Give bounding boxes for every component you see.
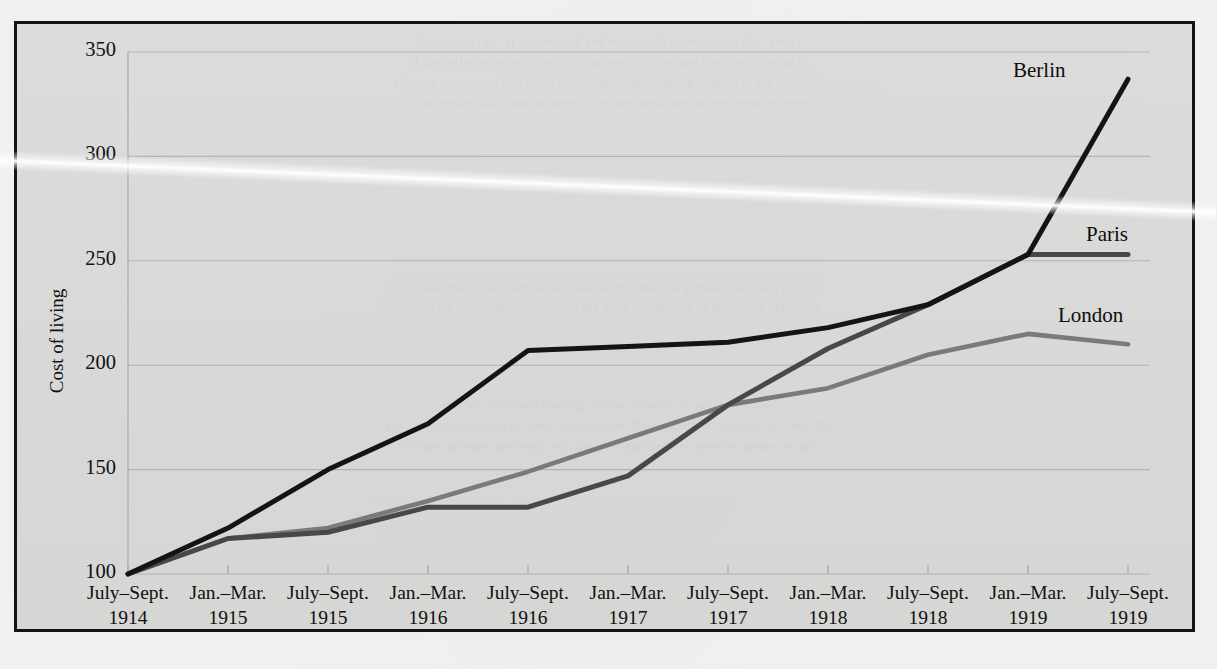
- x-axis-tick-period: Jan.–Mar.: [590, 582, 667, 603]
- x-axis-tick-period: July–Sept.: [1087, 582, 1169, 603]
- y-axis-title: Cost of living: [46, 261, 68, 421]
- series-line-paris: [128, 255, 1128, 574]
- x-axis-tick-year: 1919: [1063, 605, 1193, 630]
- x-axis-tick-period: Jan.–Mar.: [190, 582, 267, 603]
- x-axis-tick-period: July–Sept.: [687, 582, 769, 603]
- series-label-london: London: [1058, 303, 1123, 328]
- series-line-london: [128, 334, 1128, 574]
- y-axis-tick-label: 350: [60, 38, 116, 61]
- x-axis-tick-period: Jan.–Mar.: [790, 582, 867, 603]
- x-axis-tick-period: July–Sept.: [87, 582, 169, 603]
- x-axis-tick-marks: [128, 565, 1128, 574]
- page-background: the manuscript. It was revised and re-se…: [0, 0, 1217, 669]
- series-label-paris: Paris: [1086, 222, 1128, 247]
- y-axis-tick-label: 200: [60, 351, 116, 374]
- data-series: [128, 79, 1128, 574]
- x-axis-tick-period: July–Sept.: [887, 582, 969, 603]
- x-axis-tick-period: July–Sept.: [287, 582, 369, 603]
- line-chart: [0, 0, 1217, 669]
- series-label-berlin: Berlin: [1013, 58, 1066, 83]
- series-line-berlin: [128, 79, 1128, 574]
- y-axis-tick-label: 300: [60, 142, 116, 165]
- y-axis-tick-label: 250: [60, 247, 116, 270]
- y-axis-tick-label: 150: [60, 456, 116, 479]
- x-axis-tick-label: July–Sept.1919: [1063, 580, 1193, 630]
- x-axis-tick-period: Jan.–Mar.: [990, 582, 1067, 603]
- x-axis-tick-period: July–Sept.: [487, 582, 569, 603]
- x-axis-tick-period: Jan.–Mar.: [390, 582, 467, 603]
